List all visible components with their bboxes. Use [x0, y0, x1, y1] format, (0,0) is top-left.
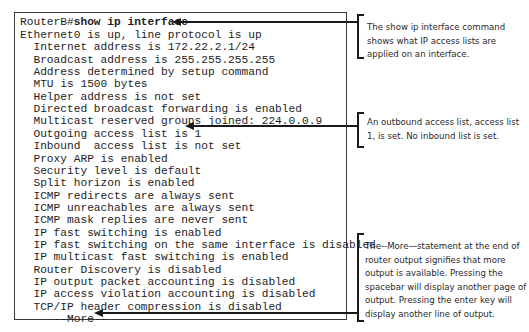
prompt: RouterB#	[20, 16, 74, 28]
output-line: Security level is default	[20, 165, 201, 178]
bracket-command	[357, 14, 364, 59]
callout-arrow-more	[102, 312, 357, 314]
output-line: Ethernet0 is up, line protocol is up	[20, 29, 262, 42]
output-line: Address determined by setup command	[20, 66, 268, 79]
output-line: IP fast switching is enabled	[20, 227, 221, 240]
output-line: ICMP unreachables are always sent	[20, 202, 255, 215]
output-line: Router Discovery is disabled	[20, 264, 221, 277]
command: show ip interface	[74, 16, 188, 28]
callout-show-command: The show ip interface command shows what…	[367, 21, 527, 62]
output-line: MTU is 1500 bytes	[20, 78, 148, 91]
output-line: IP access violation accounting is disabl…	[20, 288, 315, 301]
bracket-more	[357, 233, 364, 322]
output-line: Proxy ARP is enabled	[20, 153, 168, 166]
output-line: Internet address is 172.22.2.1/24	[20, 41, 255, 54]
output-line: IP multicast fast switching is enabled	[20, 251, 289, 264]
callout-access-list: An outbound access list, access list 1, …	[367, 116, 527, 143]
bracket-access-list	[357, 112, 364, 148]
output-line: Directed broadcast forwarding is enabled	[20, 103, 302, 116]
output-line: IP fast switching on the same interface …	[20, 239, 376, 252]
output-line: Broadcast address is 255.255.255.255	[20, 54, 275, 67]
output-line: Helper address is not set	[20, 91, 201, 104]
output-line: ICMP mask replies are never sent	[20, 214, 248, 227]
output-line: IP output packet accounting is disabled	[20, 276, 295, 289]
callout-arrow-access-list	[193, 125, 357, 127]
output-line: ICMP redirects are always sent	[20, 190, 235, 203]
output-line: Split horizon is enabled	[20, 177, 195, 190]
callout-more-prompt: The--More—statement at the end of router…	[365, 240, 529, 321]
command-line: RouterB#show ip interface	[20, 16, 188, 29]
output-line: Inbound access list is not set	[20, 140, 242, 153]
callout-arrow-command	[180, 21, 357, 23]
output-line: Outgoing access list is 1	[20, 128, 201, 141]
